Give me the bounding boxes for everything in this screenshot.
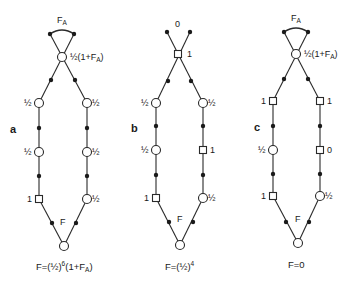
panel-c: FA ½(1+FA) 1 ½ 1 1 (254, 13, 338, 270)
circle-node (199, 194, 208, 203)
dot-marker (37, 174, 41, 178)
panel-letter: c (254, 121, 260, 133)
dot-marker (37, 126, 41, 130)
bottom-label: F (60, 217, 66, 227)
dot-marker (85, 126, 89, 130)
square-node (153, 195, 160, 202)
node-label: ½ (92, 147, 100, 157)
node-label: ½ (141, 145, 149, 155)
node-label: 1 (327, 96, 332, 106)
node-label: ½ (24, 147, 32, 157)
dot-marker (50, 221, 54, 225)
circle-node (35, 99, 44, 108)
node-label: ½ (258, 145, 266, 155)
dot-marker (73, 78, 77, 82)
dot-marker (201, 173, 205, 177)
dot-marker (189, 79, 193, 83)
dot-marker (48, 32, 52, 36)
dot-marker (318, 124, 322, 128)
square-node (317, 147, 324, 154)
top-label: FA (291, 13, 302, 24)
dot-marker (201, 124, 205, 128)
panel-letter: a (10, 123, 17, 135)
dot-marker (165, 30, 169, 34)
bottom-label: F (295, 214, 301, 224)
node-label: 1 (261, 96, 266, 106)
circle-node (269, 146, 278, 155)
dot-marker (154, 173, 158, 177)
bottom-circle-node (294, 239, 303, 248)
node-label: ½ (141, 98, 149, 108)
formula: F=(½)6(1+FA) (36, 260, 93, 273)
apex-circle-node (58, 53, 67, 62)
dot-marker (72, 32, 76, 36)
square-node (270, 98, 277, 105)
dot-marker (167, 220, 171, 224)
dot-marker (282, 30, 286, 34)
dot-marker (307, 220, 311, 224)
circle-node (199, 99, 208, 108)
dot-marker (154, 124, 158, 128)
dot-marker (166, 79, 170, 83)
panel-a: FA ½(1+FA) ½ (10, 15, 104, 273)
dot-marker (318, 172, 322, 176)
inbreeding-arc (50, 30, 74, 34)
top-label: FA (57, 15, 68, 26)
bottom-circle-node (60, 242, 69, 251)
edge (273, 32, 308, 101)
circle-node (83, 195, 92, 204)
square-node (36, 196, 43, 203)
panel-letter: b (131, 122, 138, 134)
square-node (317, 98, 324, 105)
node-label: ½ (208, 193, 216, 203)
node-label: ½ (92, 98, 100, 108)
inbreeding-arc (284, 28, 308, 32)
node-label: 0 (327, 145, 332, 155)
square-node (270, 193, 277, 200)
formula: F=0 (288, 259, 305, 270)
circle-node (83, 99, 92, 108)
apex-circle-node (292, 50, 301, 59)
node-label: 1 (144, 193, 149, 203)
dot-marker (191, 220, 195, 224)
edge (298, 196, 320, 243)
edge (284, 32, 320, 101)
apex-label: ½(1+FA) (304, 49, 338, 60)
circle-node (152, 146, 161, 155)
circle-node (152, 99, 161, 108)
dot-marker (271, 124, 275, 128)
top-label: 0 (175, 19, 180, 29)
panel-b: 0 1 ½ ½ 1 ½ (131, 19, 216, 272)
apex-square-node (175, 51, 182, 58)
node-label: ½ (325, 191, 333, 201)
dot-marker (306, 30, 310, 34)
node-label: ½ (208, 98, 216, 108)
dot-marker (282, 77, 286, 81)
circle-node (35, 148, 44, 157)
dot-marker (271, 172, 275, 176)
square-node (200, 147, 207, 154)
pedigree-figure: FA ½(1+FA) ½ (0, 0, 354, 285)
node-label: 1 (261, 191, 266, 201)
dot-marker (306, 77, 310, 81)
dot-marker (85, 174, 89, 178)
apex-label: ½(1+FA) (70, 52, 104, 63)
bottom-label: F (177, 214, 183, 224)
dot-marker (284, 220, 288, 224)
dot-marker (188, 30, 192, 34)
circle-node (83, 148, 92, 157)
formula: F=(½)4 (165, 260, 195, 272)
node-label: ½ (92, 194, 100, 204)
node-label: 1 (210, 145, 215, 155)
circle-node (316, 192, 325, 201)
node-label: 1 (27, 194, 32, 204)
apex-label: 1 (187, 49, 192, 59)
bottom-circle-node (176, 241, 185, 250)
dot-marker (74, 221, 78, 225)
node-label: ½ (24, 98, 32, 108)
dot-marker (49, 78, 53, 82)
